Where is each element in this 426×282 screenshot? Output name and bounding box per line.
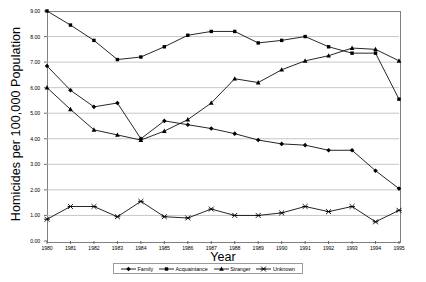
legend-item-acquaintance: Acquaintance xyxy=(159,265,208,273)
data-point xyxy=(208,207,214,212)
y-tick-label: 8.00 xyxy=(12,34,40,40)
data-point xyxy=(279,142,284,147)
y-tick-label: 4.00 xyxy=(12,136,40,142)
series-acquaintance xyxy=(45,9,400,101)
legend-marker-x-bar-icon xyxy=(256,265,271,273)
x-axis-title: Year xyxy=(47,250,399,264)
data-point xyxy=(163,45,166,48)
y-tick-label: 3.00 xyxy=(12,161,40,167)
data-point xyxy=(350,51,353,54)
data-point xyxy=(45,9,48,12)
y-tick-label: 2.00 xyxy=(12,187,40,193)
data-point xyxy=(185,216,191,221)
legend-label: Family xyxy=(138,266,154,272)
data-point xyxy=(350,46,355,50)
data-point xyxy=(232,213,238,218)
data-point xyxy=(186,122,191,127)
data-point xyxy=(138,199,144,204)
data-point xyxy=(302,204,308,209)
y-tick-label: 1.00 xyxy=(12,212,40,218)
series-unknown xyxy=(44,199,402,224)
data-point xyxy=(396,208,402,213)
chart-legend: FamilyAcquaintanceStrangerUnknown xyxy=(113,263,303,274)
gridlines xyxy=(44,11,399,241)
y-tick-label: 5.00 xyxy=(12,110,40,116)
data-point xyxy=(303,143,308,148)
data-point xyxy=(115,214,121,219)
data-point xyxy=(303,35,306,38)
data-point xyxy=(69,23,72,26)
y-tick-label: 7.00 xyxy=(12,59,40,65)
y-tick-label: 6.00 xyxy=(12,85,40,91)
legend-label: Stranger xyxy=(230,266,250,272)
data-point xyxy=(233,30,236,33)
data-point xyxy=(326,209,332,214)
data-point xyxy=(68,204,74,209)
x-axis-ticks xyxy=(47,241,399,244)
legend-marker-square-icon xyxy=(159,265,174,273)
data-point xyxy=(91,204,97,209)
data-point xyxy=(374,51,377,54)
data-point xyxy=(349,204,355,209)
data-point xyxy=(44,217,50,222)
data-point xyxy=(161,214,167,219)
data-point xyxy=(397,97,400,100)
data-point xyxy=(185,117,190,121)
data-point xyxy=(186,34,189,37)
y-tick-label: 0.00 xyxy=(12,238,40,244)
data-point xyxy=(210,30,213,33)
series-line xyxy=(47,201,399,221)
data-series-layer xyxy=(44,9,402,224)
data-point xyxy=(232,76,237,80)
legend-item-family: Family xyxy=(121,265,153,273)
data-point xyxy=(92,39,95,42)
data-point xyxy=(373,219,379,224)
plot-canvas xyxy=(0,0,426,282)
data-point xyxy=(232,131,237,136)
line-chart: Homicides per 100,000 Population 0.001.0… xyxy=(0,0,426,282)
series-line xyxy=(47,66,399,189)
legend-marker-triangle-icon xyxy=(214,265,229,273)
data-point xyxy=(327,45,330,48)
y-tick-label: 9.00 xyxy=(12,8,40,14)
legend-item-unknown: Unknown xyxy=(256,265,295,273)
data-point xyxy=(279,210,285,215)
data-point xyxy=(257,41,260,44)
data-point xyxy=(326,148,331,153)
data-point xyxy=(115,101,120,106)
legend-item-stranger: Stranger xyxy=(214,265,251,273)
legend-label: Acquaintance xyxy=(176,266,208,272)
series-stranger xyxy=(45,46,402,142)
series-family xyxy=(45,64,402,191)
series-line xyxy=(47,11,399,99)
data-point xyxy=(255,213,261,218)
data-point xyxy=(139,55,142,58)
legend-label: Unknown xyxy=(273,266,295,272)
data-point xyxy=(116,58,119,61)
data-point xyxy=(280,39,283,42)
data-point xyxy=(209,126,214,131)
legend-marker-diamond-icon xyxy=(121,265,136,273)
